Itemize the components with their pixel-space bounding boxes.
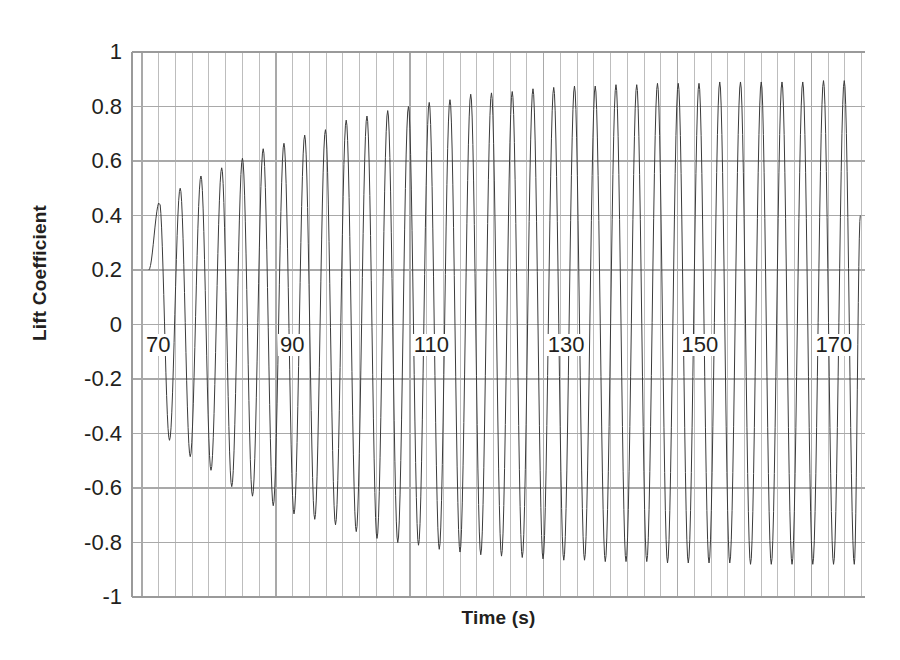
y-tick-label: 0.8 — [52, 96, 122, 118]
y-tick-label: -0.2 — [52, 368, 122, 390]
y-axis-title: Lift Coefficient — [29, 153, 51, 393]
y-tick-label: -0.6 — [52, 477, 122, 499]
y-tick-label: -0.8 — [52, 532, 122, 554]
plot-canvas — [0, 0, 900, 660]
y-axis-tick-labels: -1-0.8-0.6-0.4-0.200.20.40.60.81 — [40, 0, 122, 660]
y-tick-label: 1 — [52, 41, 122, 63]
y-tick-label: 0.2 — [52, 259, 122, 281]
lift-coefficient-chart: -1-0.8-0.6-0.4-0.200.20.40.60.81 7090110… — [0, 0, 900, 660]
y-tick-label: -0.4 — [52, 423, 122, 445]
x-axis-title: Time (s) — [132, 607, 865, 629]
series-line — [149, 81, 861, 565]
y-tick-label: 0.6 — [52, 150, 122, 172]
y-tick-label: -1 — [52, 586, 122, 608]
y-tick-label: 0.4 — [52, 205, 122, 227]
data-series-group — [149, 81, 861, 565]
y-tick-label: 0 — [52, 314, 122, 336]
y-gridlines-group — [132, 52, 865, 597]
